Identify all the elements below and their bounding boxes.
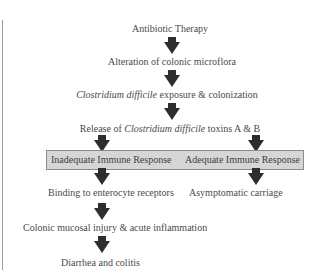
organism-name: Clostridium difficile [76, 89, 157, 100]
arrow-down-icon [94, 168, 110, 186]
node-release-post: toxins A & B [205, 123, 260, 134]
node-exposure-text: exposure & colonization [157, 89, 258, 100]
node-toxin-release: Release of Clostridium difficile toxins … [80, 123, 260, 135]
immune-response-box: Inadequate Immune Response Adequate Immu… [46, 150, 304, 170]
arrow-down-icon [164, 103, 180, 121]
node-binding-enterocyte: Binding to enterocyte receptors [48, 187, 174, 199]
node-diarrhea-colitis: Diarrhea and colitis [61, 257, 140, 269]
node-asymptomatic-carriage: Asymptomatic carriage [189, 187, 283, 199]
node-release-pre: Release of [80, 123, 124, 134]
arrow-down-icon [248, 168, 264, 186]
left-border-line [2, 20, 3, 270]
arrow-down-icon [94, 236, 110, 254]
organism-name: Clostridium difficile [124, 123, 205, 134]
node-alteration-microflora: Alteration of colonic microflora [108, 56, 236, 68]
arrow-down-icon [164, 37, 180, 55]
node-antibiotic-therapy: Antibiotic Therapy [132, 23, 208, 35]
node-inadequate-immune-response: Inadequate Immune Response [51, 154, 172, 165]
arrow-down-icon [94, 203, 110, 221]
node-adequate-immune-response: Adequate Immune Response [185, 154, 300, 165]
node-exposure-colonization: Clostridium difficile exposure & coloniz… [76, 89, 258, 101]
node-mucosal-injury: Colonic mucosal injury & acute inflammat… [23, 222, 207, 234]
arrow-down-icon [164, 70, 180, 88]
